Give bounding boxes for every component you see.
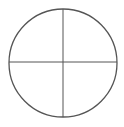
quadrant-circle-diagram (0, 0, 124, 127)
